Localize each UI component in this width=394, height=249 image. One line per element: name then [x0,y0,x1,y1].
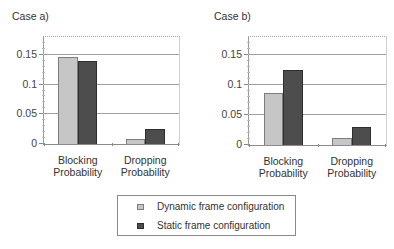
bar-static-blocking [78,61,97,144]
y-minor-tick [247,120,250,121]
y-minor-tick [247,42,250,43]
y-minor-tick [247,48,250,49]
y-minor-tick [247,108,250,109]
y-minor-tick [42,101,45,102]
y-minor-tick [247,132,250,133]
y-minor-tick [42,60,45,61]
y-major-tick [244,114,248,115]
plot-area-case-a: 00.050.10.15BlockingProbabilityDroppingP… [43,36,180,145]
y-tick-label: 0.1 [208,78,242,90]
chart-title-case-b: Case b) [214,10,251,22]
y-minor-tick [42,131,45,132]
y-major-tick [244,84,248,85]
y-minor-tick [247,96,250,97]
y-minor-tick [247,60,250,61]
y-minor-tick [42,48,45,49]
y-minor-tick [42,95,45,96]
y-minor-tick [42,78,45,79]
bar-static-dropping [352,127,372,145]
x-tick [249,144,250,147]
y-minor-tick [42,72,45,73]
bar-dynamic-dropping [126,139,145,144]
y-major-tick [244,54,248,55]
x-category-label: DroppingProbability [308,155,394,179]
plot-area-case-b: 00.050.10.15BlockingProbabilityDroppingP… [248,36,387,146]
legend: Dynamic frame configuration Static frame… [117,195,296,236]
gridline [249,54,386,55]
y-minor-tick [247,90,250,91]
chart-case-a: Case a) 00.050.10.15BlockingProbabilityD… [0,0,197,190]
y-tick-label: 0 [3,137,37,149]
x-tick [178,143,179,146]
y-minor-tick [42,42,45,43]
y-minor-tick [42,66,45,67]
y-minor-tick [247,138,250,139]
y-minor-tick [42,137,45,138]
y-tick-label: 0.05 [3,107,37,119]
y-tick-label: 0.15 [208,48,242,60]
x-tick [112,143,113,146]
y-minor-tick [42,125,45,126]
x-category-label-line: Probability [308,167,394,179]
y-tick-label: 0.05 [208,108,242,120]
y-minor-tick [247,78,250,79]
x-category-label-line: Dropping [102,154,190,166]
y-minor-tick [42,119,45,120]
chart-case-b: Case b) 00.050.10.15BlockingProbabilityD… [197,0,394,190]
y-minor-tick [247,72,250,73]
y-minor-tick [42,107,45,108]
y-major-tick [244,144,248,145]
bar-dynamic-blocking [58,57,77,144]
y-minor-tick [42,90,45,91]
legend-swatch-static [137,223,144,229]
chart-title-case-a: Case a) [12,10,49,22]
x-category-label-line: Probability [102,166,190,178]
y-major-tick [39,54,43,55]
bar-dynamic-dropping [332,138,352,145]
y-major-tick [39,84,43,85]
y-tick-label: 0 [208,138,242,150]
y-minor-tick [247,126,250,127]
legend-label-static: Static frame configuration [157,220,270,232]
y-tick-label: 0.15 [3,48,37,60]
y-tick-label: 0.1 [3,78,37,90]
bar-dynamic-blocking [264,93,284,145]
x-tick [385,144,386,147]
y-major-tick [39,143,43,144]
legend-label-dynamic: Dynamic frame configuration [157,201,284,213]
y-major-tick [39,113,43,114]
legend-swatch-dynamic [137,204,144,210]
x-category-label: DroppingProbability [102,154,190,178]
bar-static-blocking [283,70,303,145]
x-category-label-line: Dropping [308,155,394,167]
x-tick [44,143,45,146]
bar-static-dropping [145,129,164,144]
gridline [249,84,386,85]
y-minor-tick [247,66,250,67]
gridline [44,54,179,55]
x-tick [318,144,319,147]
y-minor-tick [247,102,250,103]
